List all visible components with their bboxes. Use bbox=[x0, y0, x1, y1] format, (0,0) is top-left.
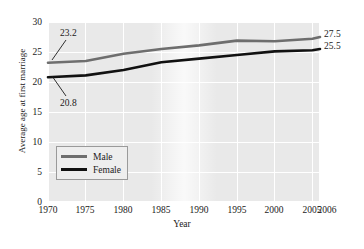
x-axis-title: Year bbox=[0, 219, 364, 230]
legend-item-female: Female bbox=[61, 163, 121, 176]
plot-area: Male Female bbox=[48, 22, 320, 202]
annotation-male-end: 27.5 bbox=[324, 29, 341, 39]
annotation-female-end: 25.5 bbox=[324, 41, 341, 51]
annotation-female-start: 20.8 bbox=[60, 98, 77, 108]
line-series-female bbox=[48, 49, 320, 77]
chart-figure: 30 25 20 15 10 5 0 Average age at first … bbox=[0, 0, 364, 249]
annotation-male-start: 23.2 bbox=[60, 28, 77, 38]
legend-label-male: Male bbox=[93, 152, 113, 162]
legend-item-male: Male bbox=[61, 150, 121, 163]
chart-legend: Male Female bbox=[56, 146, 128, 180]
legend-swatch-male bbox=[61, 155, 87, 158]
legend-swatch-female bbox=[61, 168, 87, 171]
legend-label-female: Female bbox=[93, 165, 121, 175]
x-axis-tick-label: 2006 bbox=[305, 205, 349, 216]
y-axis-title: Average age at first marriage bbox=[17, 11, 27, 191]
